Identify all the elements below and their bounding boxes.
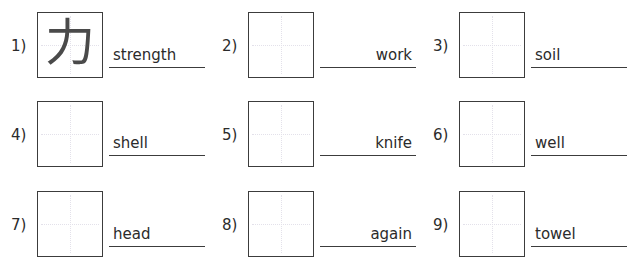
english-word: shell bbox=[109, 134, 205, 152]
kanji-glyph bbox=[460, 192, 524, 256]
english-word: strength bbox=[109, 46, 205, 64]
item-number: 4) bbox=[5, 124, 37, 144]
english-word: well bbox=[531, 134, 627, 152]
kanji-writing-box[interactable] bbox=[248, 191, 314, 257]
item-number: 2) bbox=[216, 35, 248, 55]
kanji-writing-box[interactable]: 力 bbox=[37, 12, 103, 78]
item-number: 3) bbox=[427, 35, 459, 55]
english-word: towel bbox=[531, 225, 627, 243]
english-word: again bbox=[320, 225, 416, 243]
worksheet-item-6: 6) well bbox=[427, 90, 638, 178]
kanji-worksheet: 1) 力 strength 2) work 3) bbox=[0, 0, 643, 269]
answer-line: strength bbox=[109, 46, 205, 68]
kanji-writing-box[interactable] bbox=[37, 191, 103, 257]
item-number: 5) bbox=[216, 124, 248, 144]
worksheet-item-5: 5) knife bbox=[216, 90, 427, 178]
kanji-glyph bbox=[460, 13, 524, 77]
worksheet-item-7: 7) head bbox=[5, 178, 216, 269]
answer-line: work bbox=[320, 46, 416, 68]
kanji-glyph bbox=[249, 13, 313, 77]
answer-line: soil bbox=[531, 46, 627, 68]
worksheet-item-2: 2) work bbox=[216, 0, 427, 90]
kanji-glyph: 力 bbox=[38, 13, 102, 77]
kanji-writing-box[interactable] bbox=[459, 12, 525, 78]
worksheet-grid: 1) 力 strength 2) work 3) bbox=[5, 0, 638, 269]
kanji-glyph bbox=[460, 102, 524, 166]
item-number: 6) bbox=[427, 124, 459, 144]
worksheet-item-9: 9) towel bbox=[427, 178, 638, 269]
item-number: 8) bbox=[216, 214, 248, 234]
kanji-writing-box[interactable] bbox=[459, 101, 525, 167]
worksheet-item-3: 3) soil bbox=[427, 0, 638, 90]
kanji-writing-box[interactable] bbox=[459, 191, 525, 257]
kanji-writing-box[interactable] bbox=[248, 101, 314, 167]
kanji-glyph bbox=[38, 192, 102, 256]
answer-line: shell bbox=[109, 134, 205, 156]
english-word: work bbox=[320, 46, 416, 64]
kanji-writing-box[interactable] bbox=[248, 12, 314, 78]
answer-line: towel bbox=[531, 225, 627, 247]
english-word: knife bbox=[320, 134, 416, 152]
item-number: 9) bbox=[427, 214, 459, 234]
answer-line: again bbox=[320, 225, 416, 247]
kanji-glyph bbox=[249, 192, 313, 256]
worksheet-item-8: 8) again bbox=[216, 178, 427, 269]
kanji-glyph bbox=[249, 102, 313, 166]
worksheet-item-1: 1) 力 strength bbox=[5, 0, 216, 90]
answer-line: knife bbox=[320, 134, 416, 156]
english-word: soil bbox=[531, 46, 627, 64]
answer-line: head bbox=[109, 225, 205, 247]
item-number: 1) bbox=[5, 35, 37, 55]
kanji-writing-box[interactable] bbox=[37, 101, 103, 167]
answer-line: well bbox=[531, 134, 627, 156]
item-number: 7) bbox=[5, 214, 37, 234]
english-word: head bbox=[109, 225, 205, 243]
worksheet-item-4: 4) shell bbox=[5, 90, 216, 178]
kanji-glyph bbox=[38, 102, 102, 166]
